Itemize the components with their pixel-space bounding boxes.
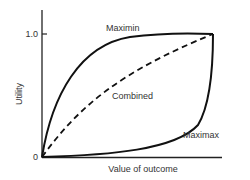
- tick-label-0: 0: [33, 152, 38, 162]
- combined-label: Combined: [112, 91, 153, 101]
- tick-label-1: 1.0: [25, 29, 38, 39]
- maximax-label: Maximax: [183, 130, 220, 140]
- y-axis-label: Utility: [14, 83, 24, 105]
- utility-chart: 1.0 0 Utility Value of outcome Maximin C…: [0, 0, 250, 180]
- x-axis-label: Value of outcome: [108, 164, 177, 174]
- maximin-label: Maximin: [106, 23, 140, 33]
